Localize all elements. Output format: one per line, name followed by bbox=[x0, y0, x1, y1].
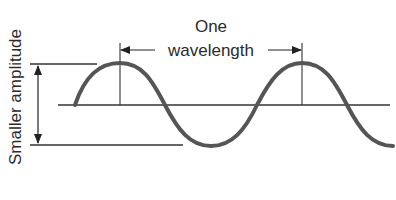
amplitude-label: Smaller amplitude bbox=[6, 29, 25, 165]
wave-amplitude-diagram: One wavelength Smaller amplitude bbox=[0, 0, 396, 200]
one-label: One bbox=[195, 17, 227, 36]
wavelength-label: wavelength bbox=[167, 41, 254, 60]
